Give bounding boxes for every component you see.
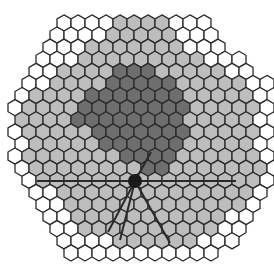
hex-cell bbox=[225, 233, 239, 249]
hex-cell bbox=[120, 245, 134, 261]
hex-grid-diagram bbox=[0, 0, 274, 280]
hex-cell bbox=[148, 245, 162, 261]
hex-cell bbox=[134, 245, 148, 261]
hex-cell bbox=[92, 245, 106, 261]
hex-cell bbox=[162, 245, 176, 261]
center-node-dot bbox=[128, 174, 142, 188]
hex-cell bbox=[190, 245, 204, 261]
hex-cells bbox=[8, 15, 274, 261]
hex-cell bbox=[204, 245, 218, 261]
hex-cell bbox=[176, 245, 190, 261]
center-marker bbox=[128, 174, 142, 188]
hex-cell bbox=[64, 245, 78, 261]
hex-cell bbox=[106, 245, 120, 261]
hex-cell bbox=[78, 245, 92, 261]
